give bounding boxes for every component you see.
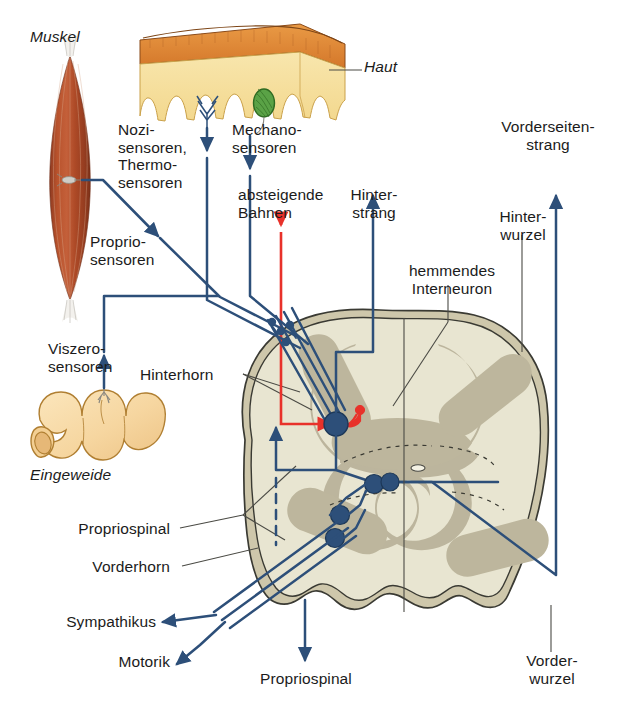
label-nozi-thermo-sensoren: Nozi- sensoren, Thermo- sensoren [118, 121, 228, 191]
label-mechano-sensoren: Mechano- sensoren [232, 121, 344, 156]
label-vorderwurzel: Vorder- wurzel [510, 652, 594, 687]
dorsal-root-bundle [268, 308, 345, 422]
hinterstrang-path [336, 196, 373, 412]
label-hinterhorn: Hinterhorn [140, 366, 250, 384]
central-canal [411, 465, 425, 471]
vorderseitenstrang-path [336, 196, 556, 575]
label-propriospinal-left: Propriospinal [54, 520, 170, 538]
label-vorderseitenstrang: Vorderseiten- strang [478, 118, 618, 153]
leader-propriospinal3 [243, 515, 285, 540]
label-vorderhorn: Vorderhorn [62, 558, 170, 576]
label-motorik: Motorik [58, 653, 170, 671]
label-hinterwurzel: Hinter- wurzel [484, 208, 562, 243]
label-propriosensoren: Proprio- sensoren [90, 233, 190, 268]
label-haut: Haut [364, 58, 434, 76]
hinterhorn-neuron-soma [324, 412, 348, 436]
sympathikus-arrow [163, 615, 216, 622]
leader-propriospinal [180, 515, 243, 528]
commissural-neuron-soma [381, 473, 399, 491]
label-propriospinal-bottom: Propriospinal [236, 670, 376, 688]
label-hinterstrang: Hinter- strang [330, 186, 418, 221]
leader-lines [180, 70, 551, 652]
label-sympathikus: Sympathikus [38, 613, 156, 631]
label-hemmendes-interneuron: hemmendes Interneuron [388, 262, 516, 297]
label-eingeweide: Eingeweide [30, 466, 150, 484]
leader-vorderhorn [182, 548, 258, 566]
label-muskel: Muskel [30, 28, 122, 46]
ventral-root-bundle [214, 520, 356, 628]
label-viszerosensoren: Viszero- sensoren [48, 340, 148, 375]
propriospinal-up [276, 428, 336, 470]
motoneuron-soma-2 [331, 506, 350, 525]
leader-interneuron2 [393, 322, 448, 406]
leader-propriospinal2 [243, 466, 296, 515]
figure-canvas: Muskel Haut Nozi- sensoren, Thermo- sens… [0, 0, 621, 717]
motorik-arrow [177, 622, 225, 664]
